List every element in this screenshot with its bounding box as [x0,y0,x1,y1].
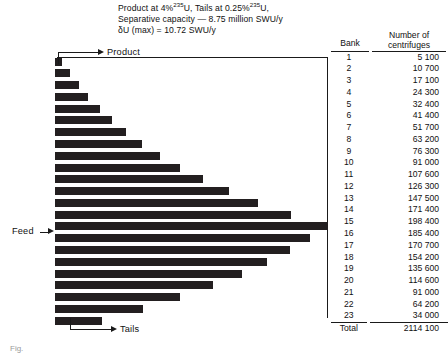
table-row: 532 400 [331,99,448,111]
table-row: 18154 200 [331,252,448,264]
cell-centrifuges: 170 700 [370,240,448,252]
product-arrow-icon [98,49,104,55]
cell-centrifuges: 126 300 [370,181,448,193]
column-header-bank: Bank [331,38,369,51]
cell-centrifuges: 41 400 [370,110,448,122]
table-row: 16185 400 [331,228,448,240]
table-row: 17170 700 [331,240,448,252]
bar-bank-17 [55,246,290,254]
cell-bank: 21 [331,287,367,299]
cascade-bar-chart: Product Feed Tails [0,0,340,352]
bar-bank-21 [55,293,180,301]
cell-centrifuges: 198 400 [370,216,448,228]
cell-centrifuges: 5 100 [370,52,448,64]
cell-centrifuges: 51 700 [370,122,448,134]
bar-bank-20 [55,281,213,289]
cell-bank: 11 [331,169,367,181]
cell-bank: 8 [331,134,367,146]
cell-centrifuges: 154 200 [370,252,448,264]
table-row: 15 100 [331,52,448,64]
cell-bank: 15 [331,216,367,228]
cell-bank: 20 [331,275,367,287]
cell-centrifuges: 114 600 [370,275,448,287]
table-row: 317 100 [331,75,448,87]
cell-centrifuges: 24 300 [370,87,448,99]
product-callout-hline [58,52,99,53]
bar-bank-9 [55,152,160,160]
table-row: 863 200 [331,134,448,146]
table-body: 15 100210 700317 100424 300532 400641 40… [331,52,448,335]
table-row: 2264 200 [331,299,448,311]
cell-total-label: Total [331,322,367,335]
cell-bank: 22 [331,299,367,311]
cell-bank: 12 [331,181,367,193]
bar-bank-18 [55,258,267,266]
cell-centrifuges: 76 300 [370,146,448,158]
table-row: 13147 500 [331,193,448,205]
bar-bank-15 [55,222,328,230]
table-row: 19135 600 [331,263,448,275]
bar-bank-8 [55,140,142,148]
table-row: 15198 400 [331,216,448,228]
table-header-row: Bank Number of centrifuges [331,30,448,52]
bar-bank-10 [55,164,180,172]
bar-bank-19 [55,270,242,278]
figure-caption: Fig. [10,344,23,353]
table-row: 210 700 [331,63,448,75]
centrifuge-table: Bank Number of centrifuges 15 100210 700… [331,30,448,335]
cell-centrifuges: 64 200 [370,299,448,311]
tails-callout-hline [70,329,112,330]
cell-bank: 4 [331,87,367,99]
bar-bank-14 [55,211,291,219]
table-row: 11107 600 [331,169,448,181]
table-row: 2334 000 [331,310,448,322]
tails-label: Tails [120,324,139,334]
feed-label: Feed [12,226,34,236]
table-row: 2191 000 [331,287,448,299]
cell-bank: 13 [331,193,367,205]
bar-bank-4 [55,93,88,101]
cell-bank: 17 [331,240,367,252]
cell-centrifuges: 91 000 [370,287,448,299]
table-row: 976 300 [331,146,448,158]
table-row: 12126 300 [331,181,448,193]
cell-centrifuges: 107 600 [370,169,448,181]
tails-arrow-icon [111,326,117,332]
table-total-row: Total2114 100 [331,322,448,335]
feed-arrow-icon [48,228,54,234]
cell-centrifuges: 63 200 [370,134,448,146]
cell-centrifuges: 91 000 [370,157,448,169]
bar-bank-7 [55,128,126,136]
bar-bank-3 [55,81,79,89]
table-row: 14171 400 [331,204,448,216]
chart-top-rule [57,57,328,58]
product-callout-vline [58,52,59,64]
bar-bank-13 [55,199,258,207]
cell-centrifuges: 185 400 [370,228,448,240]
cell-centrifuges: 32 400 [370,99,448,111]
cell-bank: 23 [331,310,367,322]
table-row: 20114 600 [331,275,448,287]
cell-centrifuges: 17 100 [370,75,448,87]
cell-centrifuges: 34 000 [370,310,448,322]
cell-bank: 5 [331,99,367,111]
bar-bank-12 [55,187,229,195]
column-header-centrifuges-line2: centrifuges [372,40,446,50]
cell-centrifuges: 171 400 [370,204,448,216]
bar-bank-22 [55,305,143,313]
bar-bank-5 [55,105,100,113]
table-row: 751 700 [331,122,448,134]
cell-bank: 3 [331,75,367,87]
cell-bank: 10 [331,157,367,169]
bar-bank-11 [55,175,203,183]
cell-bank: 19 [331,263,367,275]
cell-bank: 9 [331,146,367,158]
cell-centrifuges: 10 700 [370,63,448,75]
column-header-centrifuges-line1: Number of [372,30,446,40]
product-label: Product [107,47,140,57]
chart-right-rule [327,57,328,318]
cell-bank: 7 [331,122,367,134]
cell-bank: 1 [331,52,367,64]
cell-bank: 14 [331,204,367,216]
table-row: 424 300 [331,87,448,99]
